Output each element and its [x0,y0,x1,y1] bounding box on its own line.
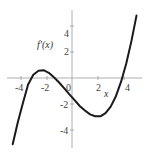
derivative-curve [13,16,137,145]
chart: -4 -2 0 2 4 4 2 -2 -4 f'(x) x [0,0,154,156]
y-tick-label: 2 [64,46,69,57]
x-tick-label: -2 [41,82,49,93]
x-axis-label: x [103,88,109,99]
y-axis-label: f'(x) [37,39,54,51]
x-tick-label: 2 [96,82,101,93]
y-tick-label: 4 [64,28,69,39]
y-tick-label: -2 [60,99,68,110]
x-tick-label: -4 [15,82,23,93]
x-tick-label: 4 [125,82,130,93]
y-tick-label: -4 [60,125,68,136]
